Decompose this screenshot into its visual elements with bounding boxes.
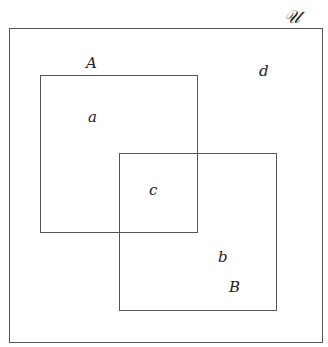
outside-label: d	[259, 64, 269, 79]
set-a-label: A	[86, 56, 97, 71]
region-b-label: b	[218, 250, 228, 265]
set-b-box	[119, 153, 277, 311]
intersection-label: c	[149, 183, 157, 198]
set-b-label: B	[229, 280, 240, 295]
universe-label: 𝒰	[284, 8, 300, 26]
region-a-label: a	[88, 110, 97, 125]
